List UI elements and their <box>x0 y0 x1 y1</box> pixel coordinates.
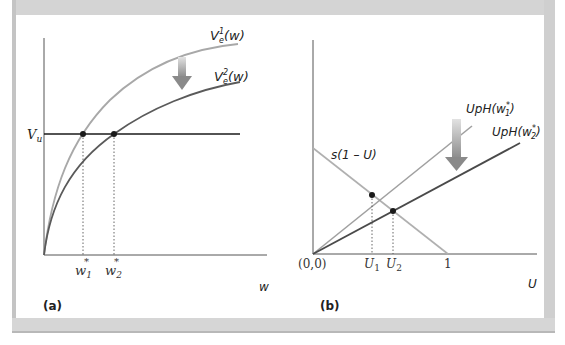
panel-b: s(1 – U) UpH(w*1) UpH(w*2) (0,0) U1 U2 1… <box>298 40 541 313</box>
shift-arrow-down-icon <box>172 57 192 90</box>
intersection-dot-u1 <box>369 192 375 198</box>
tick-u1: U1 <box>364 257 380 273</box>
curve-ve2 <box>44 82 240 255</box>
panel-b-label: (b) <box>320 299 340 313</box>
panel-a: V1e(w) V2e(w) Vu w1 * w2 * w (a) <box>27 27 269 313</box>
label-vu: Vu <box>27 127 42 144</box>
intersection-dot-u2 <box>390 208 396 214</box>
label-uph-w2: UpH(w*2) <box>492 124 541 141</box>
label-ve2: V2e(w) <box>214 68 249 86</box>
label-s-one-minus-u: s(1 – U) <box>331 148 377 162</box>
x-axis-label-u: U <box>528 277 537 291</box>
intersection-dot-w2 <box>111 131 117 137</box>
figure-svg: V1e(w) V2e(w) Vu w1 * w2 * w (a) <box>0 0 565 345</box>
tick-u2: U2 <box>386 257 402 273</box>
tick-origin: (0,0) <box>298 257 326 271</box>
intersection-dot-w1 <box>80 131 86 137</box>
curve-ve1 <box>44 44 238 255</box>
tick-w2-star-sup: * <box>114 256 119 267</box>
line-uph-w1 <box>313 126 472 254</box>
tick-w1-star-sup: * <box>84 256 89 267</box>
label-ve1: V1e(w) <box>210 27 245 45</box>
panel-a-label: (a) <box>43 299 62 313</box>
x-axis-label-w: w <box>259 280 269 294</box>
tick-one: 1 <box>444 257 452 271</box>
label-uph-w1: UpH(w*1) <box>466 101 515 118</box>
